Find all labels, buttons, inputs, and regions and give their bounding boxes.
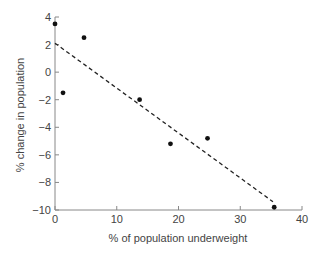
x-tick-label: 30 (234, 213, 246, 225)
y-tick-label: 0 (45, 66, 51, 78)
y-tick-label: −6 (38, 149, 51, 161)
x-axis-label: % of population underweight (109, 232, 248, 244)
trend-line (55, 43, 273, 202)
data-point (205, 136, 210, 141)
y-tick-label: −4 (38, 121, 51, 133)
x-tick-label: 10 (111, 213, 123, 225)
y-tick-label: 4 (45, 11, 51, 23)
data-point (272, 205, 277, 210)
data-point (61, 90, 66, 95)
y-tick-label: −10 (32, 204, 51, 216)
y-tick-label: −8 (38, 176, 51, 188)
y-axis-label: % change in population (14, 58, 26, 172)
data-point (82, 35, 87, 40)
x-tick-label: 0 (52, 213, 58, 225)
data-point (168, 141, 173, 146)
data-point (137, 97, 142, 102)
plot-area: 420−2−4−6−8−10010203040 (32, 11, 308, 225)
y-tick-label: −2 (38, 94, 51, 106)
x-tick-label: 20 (172, 213, 184, 225)
scatter-chart: 420−2−4−6−8−10010203040 % of population … (0, 0, 320, 254)
y-tick-label: 2 (45, 39, 51, 51)
data-point (53, 21, 58, 26)
x-tick-label: 40 (296, 213, 308, 225)
